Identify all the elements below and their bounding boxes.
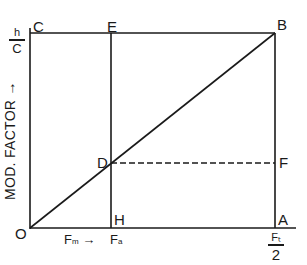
- fa-subscript: a: [118, 237, 122, 246]
- fm-subscript: m: [72, 237, 79, 246]
- modulation-diagram: [0, 0, 307, 265]
- x-axis-label-fm: Fm →: [64, 233, 95, 246]
- point-label-F: F: [279, 155, 288, 170]
- x-axis-label-fa: Fa: [110, 233, 122, 246]
- point-label-A: A: [278, 212, 288, 227]
- y-axis-label: MOD. FACTOR →: [2, 81, 18, 200]
- point-label-C: C: [33, 19, 44, 34]
- point-label-O: O: [15, 226, 27, 241]
- tick-denominator: 2: [272, 247, 280, 262]
- tick-denominator: C: [12, 42, 21, 55]
- y-axis-top-tick-label: h C: [9, 27, 25, 55]
- arrow-up-icon: →: [2, 81, 18, 95]
- point-label-H: H: [114, 212, 125, 227]
- arrow-right-icon: →: [82, 232, 95, 247]
- tick-numerator: Fₜ: [271, 232, 281, 243]
- point-label-B: B: [277, 17, 287, 32]
- fm-symbol: F: [64, 232, 72, 247]
- tick-numerator: h: [14, 27, 20, 38]
- fa-symbol: F: [110, 232, 118, 247]
- point-label-D: D: [97, 155, 108, 170]
- diagonal-OB: [30, 33, 275, 228]
- x-axis-end-tick-label: Fₜ 2: [268, 232, 284, 262]
- y-axis-label-text: MOD. FACTOR: [2, 100, 18, 200]
- point-label-E: E: [107, 19, 117, 34]
